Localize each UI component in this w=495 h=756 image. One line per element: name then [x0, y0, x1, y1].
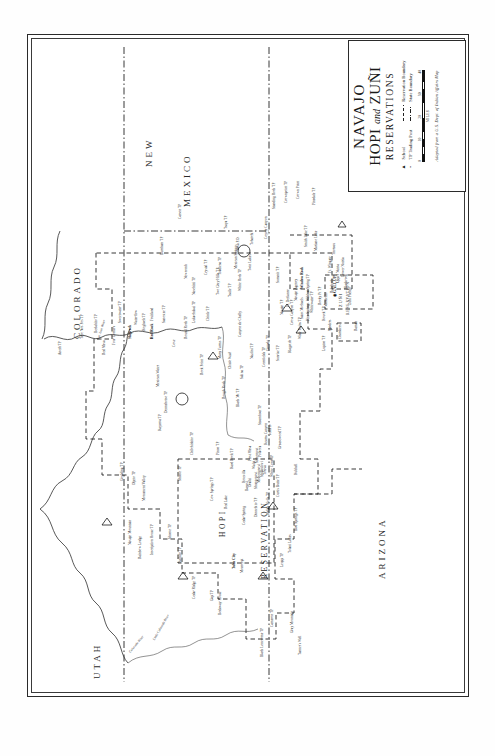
place-goulding: Goulding TP	[120, 462, 124, 481]
place-tsaile: Tsaile TP	[228, 283, 232, 297]
place-summit: Summit TP	[276, 267, 280, 283]
place-sweetwater: Sweetwater TP	[118, 301, 122, 323]
place-standing-rock: Standing Rock TP	[272, 183, 276, 209]
triangle-school-icon: ▲	[401, 162, 406, 171]
place-mexican-water: Mexican Water	[156, 365, 160, 387]
place-newcomb: Newcomb	[184, 264, 188, 279]
place-lower-nutria: Lower Nutria	[341, 257, 345, 277]
place-tolani-lakes: Tolani Lakes	[288, 534, 292, 553]
place-chinle: Chinle TP	[206, 306, 210, 321]
title-and: and	[371, 109, 382, 124]
place-navajo-mountain: Navajo Mountain	[128, 520, 132, 545]
scale-tick-3: 30	[418, 93, 422, 97]
place-crown-point: Crown Point	[296, 181, 300, 199]
place-hogback: Hogback TP	[142, 313, 146, 331]
legend-item-state-boundary: State Boundary	[408, 61, 413, 121]
river-colorado-utah-segment	[42, 231, 60, 339]
river-colorado	[40, 329, 130, 509]
place-ramah: Ramah	[354, 321, 358, 331]
place-cameron: Cameron TP	[270, 609, 274, 627]
place-crownpoint: Crownpoint TP	[284, 181, 288, 203]
state-label-new: NEW	[144, 138, 154, 168]
map-title-line-3: RESERVATIONS	[385, 72, 395, 161]
legend-item-trading-post: • TP Trading Post	[408, 130, 413, 172]
place-houck: Houck TP	[322, 306, 326, 321]
place-tuba-city: Tuba City	[232, 553, 236, 569]
legend-item-reservation-boundary: Reservation Boundary	[401, 61, 406, 121]
river-san-juan	[44, 327, 222, 340]
place-dinnebito: Dinnebito TP	[254, 498, 258, 518]
title-cartouche: NAVAJO HOPI and ZUÑI RESERVATIONS ▲ Scho…	[348, 40, 466, 192]
dashed-line-icon	[403, 105, 404, 121]
place-black-mt: Black Mt TP	[236, 388, 240, 407]
dot-trading-post-icon: •	[408, 162, 413, 171]
place-whitewater: Whitewater TP	[310, 291, 314, 313]
place-hubbell: Hubbell	[294, 463, 298, 475]
place-indian-wells: Indian Wells TP	[266, 492, 270, 515]
place-bodaway-house: Bodaway House	[218, 591, 222, 615]
place-cow-springs: Cow Springs TP	[210, 477, 214, 501]
place-ganado: Ganado TP	[266, 335, 270, 351]
place-red-mesa: Red Mesa	[102, 341, 106, 356]
place-shonto: Shonto TP	[178, 466, 182, 481]
place-tsaya: Tsaya TP	[224, 216, 228, 229]
place-tanners-well: Tanner's Well	[298, 635, 302, 655]
place-steamboat: Steamboat TP	[258, 405, 262, 425]
map-legend: ▲ School • TP Trading Post Reservation B…	[401, 47, 413, 185]
scale-bar-graphic	[422, 70, 425, 162]
place-many-farms: Many Farms TP	[218, 336, 222, 359]
place-sanders: Sanders	[328, 320, 332, 331]
river-canyon-de-chelly	[228, 435, 254, 441]
river-little-colorado	[128, 629, 258, 663]
state-label-utah: UTAH	[92, 643, 102, 679]
place-beclabito: Beclabito TP	[94, 314, 98, 333]
state-label-arizona: ARIZONA	[377, 518, 387, 580]
place-pinon: Pinon TP	[216, 442, 220, 455]
map-scale-bar: 0 10 20 30 40 MILES	[418, 70, 430, 162]
place-carson: Carson TP	[178, 204, 182, 219]
legend-label-state-boundary: State Boundary	[408, 73, 413, 101]
place-upper-nutria: Upper Nutria	[336, 264, 340, 283]
gallup-symbol: ◉	[332, 294, 337, 297]
scale-units-label: MILES	[426, 110, 430, 122]
place-bacavi: Bacavi	[245, 481, 249, 491]
place-toreva: Toreva	[263, 465, 267, 475]
place-waterflow: Waterflow	[134, 310, 138, 325]
place-rocky-pt: Rocky Pt TP	[318, 287, 322, 305]
place-thoreau: Thoreau	[332, 243, 336, 255]
place-moencopi: Moencopi	[240, 558, 244, 573]
place-salina: Salina TP	[240, 365, 244, 379]
state-label-mexico: MEXICO	[182, 154, 192, 208]
place-jeddito: Jeddito	[268, 425, 272, 435]
place-fruitland: Fruitland	[150, 308, 154, 321]
place-naschitti: Naschitti TP	[192, 277, 196, 295]
place-tohatchi: Tohatchi	[250, 232, 254, 245]
place-white-rock: White Rock TP	[238, 269, 242, 291]
place-four-corners: Four Corners	[112, 326, 116, 345]
place-crystal: Crystal TP	[204, 259, 208, 275]
place-navajo-agency: Navajo Agency	[294, 279, 298, 301]
place-monument-valley: Monument Valley	[142, 475, 146, 501]
legend-lines-column: Reservation Boundary State Boundary	[401, 61, 413, 121]
place-rough-rock: Rough Rock TP	[222, 376, 226, 399]
scale-tick-labels: 0 10 20 30 40	[418, 70, 422, 162]
place-oljeto: Oljeto TP	[132, 471, 136, 485]
legend-label-reservation-boundary: Reservation Boundary	[401, 61, 406, 102]
place-chambers: Chambers	[338, 324, 342, 339]
place-lukachukai: Lukachukai TP	[192, 301, 196, 323]
legend-symbols-column: ▲ School • TP Trading Post	[401, 130, 413, 172]
title-zuni: ZUÑI	[367, 66, 383, 104]
place-cedar-spring: Cedar Spring	[242, 506, 246, 525]
map-attribution: Adapted from a U.S. Dept. of Indian Affa…	[434, 70, 439, 161]
place-klagetoh: Klagetoh TP	[288, 335, 292, 353]
place-cedar-ridge: Cedar Ridge TP	[192, 576, 196, 599]
place-leupp: Leupp TP	[280, 553, 284, 567]
place-greasewood: Greasewood TP	[278, 426, 282, 449]
place-black-lonesome: Black Lonesome TP	[260, 628, 264, 657]
place-sunrise: Sunrise TP	[276, 345, 280, 361]
place-shonto-2: Shonto TP	[168, 524, 172, 539]
place-pinedale: Pinedale TP	[312, 188, 316, 206]
map-title-line-1: NAVAJO	[352, 83, 368, 149]
place-red-rock: Red Rock	[150, 324, 154, 339]
legend-label-trading-post: TP Trading Post	[408, 130, 413, 160]
